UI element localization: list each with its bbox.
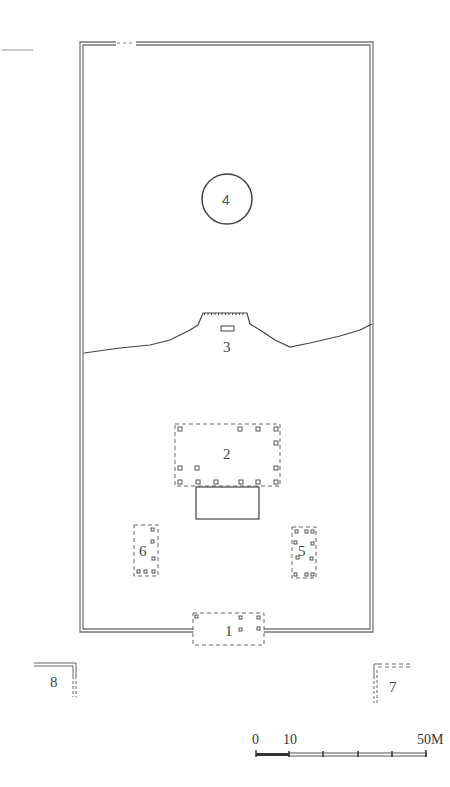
label-4: 4 [222,192,230,208]
site-plan: 4 3 2 6 5 1 [0,0,450,787]
label-3: 3 [223,339,231,355]
scale-bar: 0 10 50M [252,732,444,757]
scale-tick-50: 50M [417,732,444,747]
west-building-6: 6 [134,525,158,576]
west-outer-structure-8: 8 [34,663,76,697]
scale-tick-0: 0 [252,732,259,747]
hall-platform [196,487,259,519]
gate-1: 1 [193,613,264,645]
enclosure-wall [80,42,373,632]
label-5: 5 [298,543,306,559]
label-7: 7 [389,679,397,695]
label-8: 8 [50,674,58,690]
site-plan-drawing: 4 3 2 6 5 1 [0,0,450,787]
label-6: 6 [139,543,147,559]
east-building-5: 5 [292,527,316,578]
scale-tick-10: 10 [283,732,297,747]
circular-feature-4: 4 [202,174,252,224]
mound-platform-3: 3 [84,313,372,355]
east-outer-structure-7: 7 [374,664,413,703]
label-1: 1 [225,623,233,639]
main-hall-2: 2 [175,424,280,519]
label-2: 2 [223,446,231,462]
